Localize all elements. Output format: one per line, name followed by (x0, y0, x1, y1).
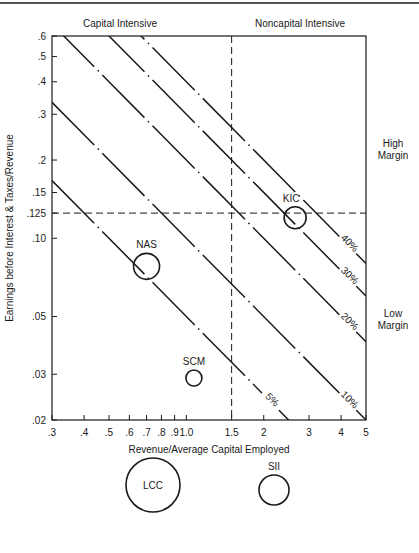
x-tick-label: .7 (142, 427, 151, 438)
bubble-kic (284, 207, 306, 229)
y-tick-label: .15 (32, 187, 46, 198)
x-tick-label: .8 (157, 427, 166, 438)
y-tick-label: .02 (32, 415, 46, 426)
label-high-margin: Margin (378, 150, 409, 161)
x-tick-label: 4 (338, 427, 344, 438)
iso-return-line (52, 102, 366, 420)
bubble-label: LCC (143, 480, 163, 491)
iso-return-line (52, 0, 366, 263)
y-tick-label: .3 (38, 109, 47, 120)
x-tick-label: .6 (125, 427, 134, 438)
label-high-margin: High (383, 138, 404, 149)
y-tick-label: .10 (32, 233, 46, 244)
x-tick-label: 3 (306, 427, 312, 438)
x-tick-label: .4 (80, 427, 89, 438)
bubble-scm (186, 370, 202, 386)
iso-return-line (52, 0, 366, 296)
plot-frame (52, 36, 366, 420)
label-capital-intensive: Capital Intensive (83, 18, 157, 29)
y-tick-label: .6 (38, 31, 47, 42)
x-tick-label: 1.0 (179, 427, 193, 438)
x-axis-label: Revenue/Average Capital Employed (128, 444, 289, 455)
y-tick-label: .05 (32, 311, 46, 322)
x-tick-label: .5 (105, 427, 114, 438)
y-tick-label: .5 (38, 51, 47, 62)
label-noncapital-intensive: Noncapital Intensive (255, 18, 345, 29)
y-tick-label: .4 (38, 76, 47, 87)
label-low-margin: Low (384, 308, 403, 319)
chart: Capital IntensiveNoncapital IntensiveHig… (0, 0, 419, 553)
label-low-margin: Margin (378, 320, 409, 331)
iso-return-line (52, 24, 366, 342)
x-tick-label: 5 (363, 427, 369, 438)
bubble-sii (259, 475, 289, 505)
y-tick-label: .2 (38, 155, 47, 166)
y-axis-label: Earnings before Interest & Taxes/Revenue (4, 134, 15, 322)
x-tick-label: 2 (261, 427, 267, 438)
x-tick-label: .3 (48, 427, 57, 438)
x-tick-label: 1.5 (225, 427, 239, 438)
bubble-label: KIC (283, 193, 300, 204)
y-tick-label: .03 (32, 369, 46, 380)
bubble-label: NAS (136, 239, 157, 250)
y-tick-label: .125 (27, 208, 47, 219)
bubble-label: SCM (183, 356, 205, 367)
bubble-label: SII (268, 461, 280, 472)
x-tick-label: .9 (170, 427, 179, 438)
